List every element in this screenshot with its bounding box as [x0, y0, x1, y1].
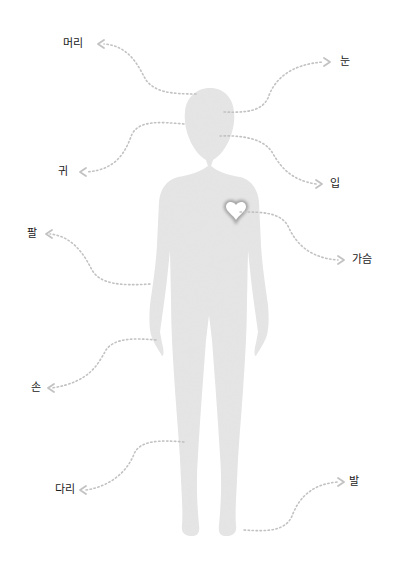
label-hand: 손	[31, 382, 41, 393]
chevron-arrow-icon	[98, 40, 104, 48]
leader-foot	[244, 478, 344, 531]
leader-arm	[46, 230, 150, 285]
chevron-arrow-icon	[80, 486, 86, 494]
chevron-arrow-icon	[80, 168, 86, 176]
chevron-arrow-icon	[316, 180, 322, 188]
chevron-arrow-icon	[324, 58, 330, 66]
label-arm: 팔	[27, 228, 37, 239]
leader-ear	[80, 123, 184, 176]
leader-eye	[224, 58, 330, 112]
label-ear: 귀	[58, 166, 68, 177]
label-chest: 가슴	[352, 254, 372, 265]
leader-hand	[48, 339, 156, 392]
label-eye: 눈	[340, 56, 350, 67]
chevron-arrow-icon	[338, 256, 344, 264]
leader-leg	[80, 441, 184, 494]
body-silhouette	[149, 88, 268, 536]
chevron-arrow-icon	[338, 478, 344, 486]
label-mouth: 입	[330, 178, 340, 189]
label-leg: 다리	[55, 484, 75, 495]
label-foot: 발	[349, 476, 359, 487]
label-head: 머리	[63, 38, 83, 49]
leader-head	[98, 40, 196, 94]
